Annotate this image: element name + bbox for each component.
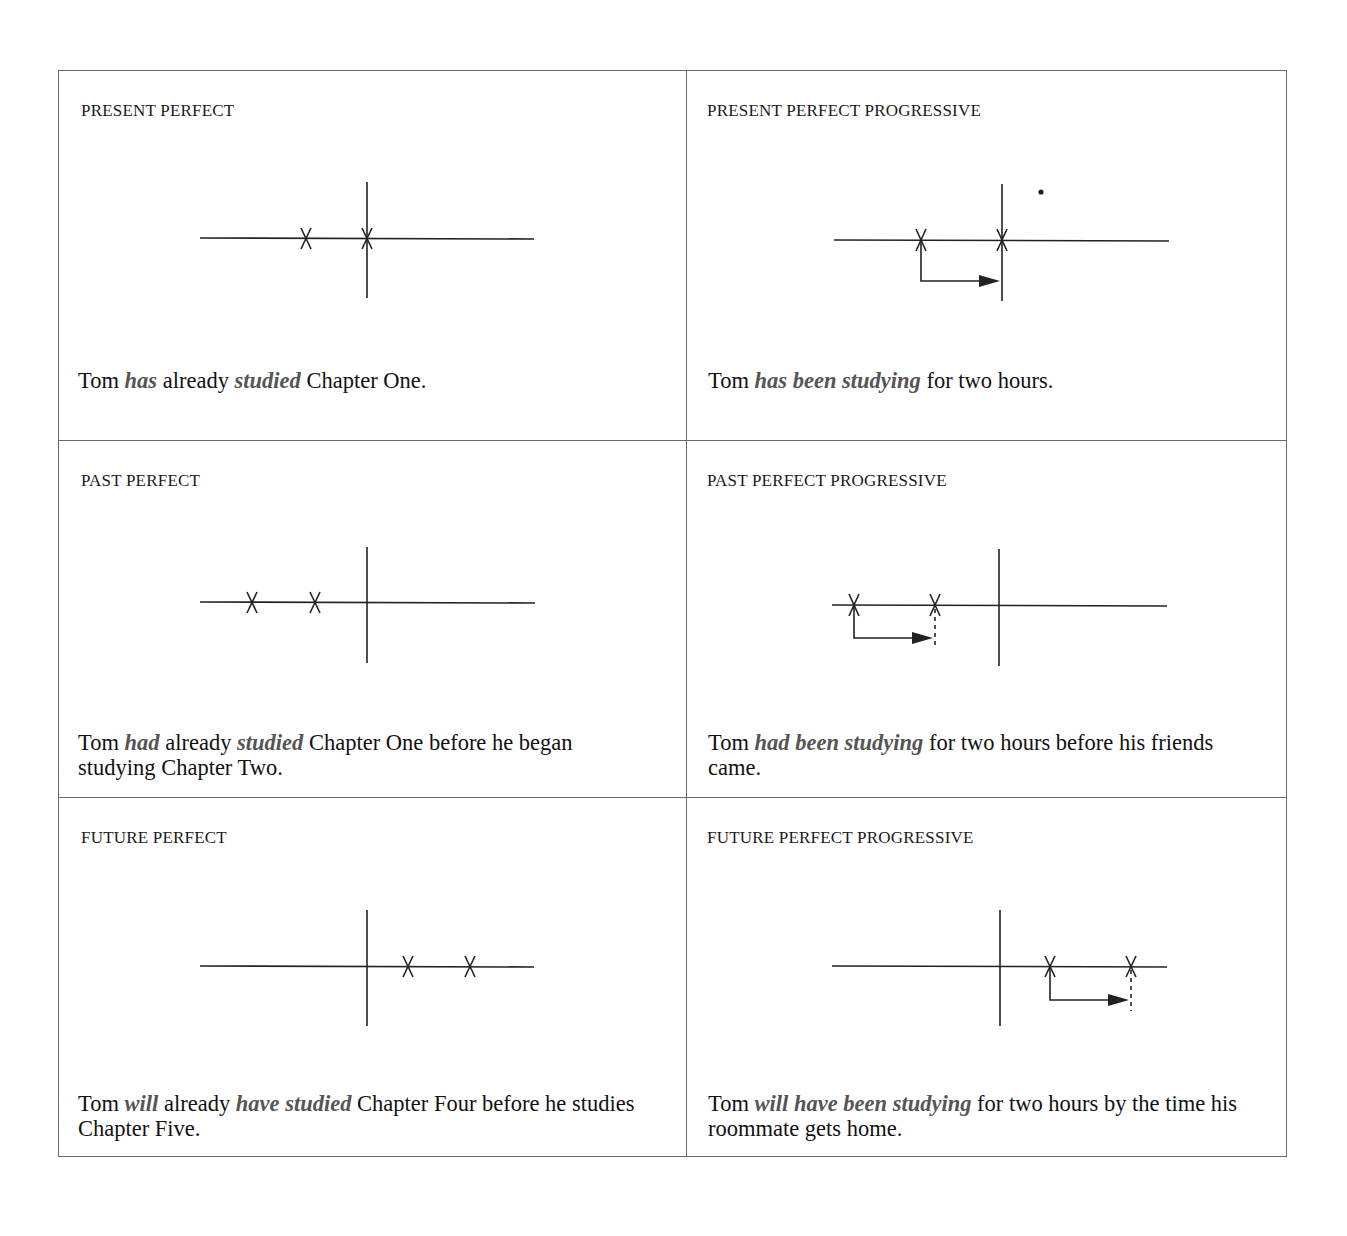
emphasized-verb: will [125,1091,159,1116]
duration-arrow-line [854,605,916,638]
sentence-text: Tom [708,368,755,393]
emphasized-verb: has been studying [755,368,921,393]
sentence-text: Tom [708,730,755,755]
emphasized-verb: studied [237,730,303,755]
cell-future-perfect: FUTURE PERFECT Tom will already have stu… [59,797,686,1156]
example-sentence: Tom has been studying for two hours. [708,368,1053,393]
cell-past-perfect: PAST PERFECT Tom had already studied Cha… [59,440,686,797]
emphasized-verb: had been studying [755,730,924,755]
sentence-text: Tom [78,1091,125,1116]
arrow-head-icon [912,632,933,644]
emphasized-verb: had [125,730,160,755]
sentence-text: already [157,368,234,393]
sentence-text: already [158,1091,235,1116]
arrow-head-icon [1108,994,1129,1006]
cell-past-perfect-progressive: PAST PERFECT PROGRESSIVE Tom had been st… [686,440,1286,797]
example-sentence: Tom will have been studying for two hour… [708,1091,1268,1141]
example-sentence: Tom will already have studied Chapter Fo… [78,1091,648,1141]
cell-present-perfect-progressive: PRESENT PERFECT PROGRESSIVE Tom has been… [686,71,1286,440]
verb-tense-table: PRESENT PERFECT Tom has already studied … [58,70,1287,1157]
sentence-text: for two hours. [921,368,1053,393]
sentence-text: already [160,730,237,755]
cell-future-perfect-progressive: FUTURE PERFECT PROGRESSIVE Tom will have… [686,797,1286,1156]
sentence-text: Tom [78,368,125,393]
arrow-head-icon [979,275,1000,287]
sentence-text: Chapter One. [301,368,427,393]
emphasized-verb: has [125,368,158,393]
dot-mark [1038,189,1043,194]
example-sentence: Tom had been studying for two hours befo… [708,730,1268,780]
emphasized-verb: studied [235,368,301,393]
duration-arrow-line [921,240,983,281]
sentence-text: Tom [78,730,125,755]
example-sentence: Tom had already studied Chapter One befo… [78,730,638,780]
cell-present-perfect: PRESENT PERFECT Tom has already studied … [59,71,686,440]
sentence-text: Tom [708,1091,755,1116]
duration-arrow-line [1050,966,1112,1000]
example-sentence: Tom has already studied Chapter One. [78,368,426,393]
emphasized-verb: will have been studying [755,1091,972,1116]
emphasized-verb: have studied [236,1091,352,1116]
